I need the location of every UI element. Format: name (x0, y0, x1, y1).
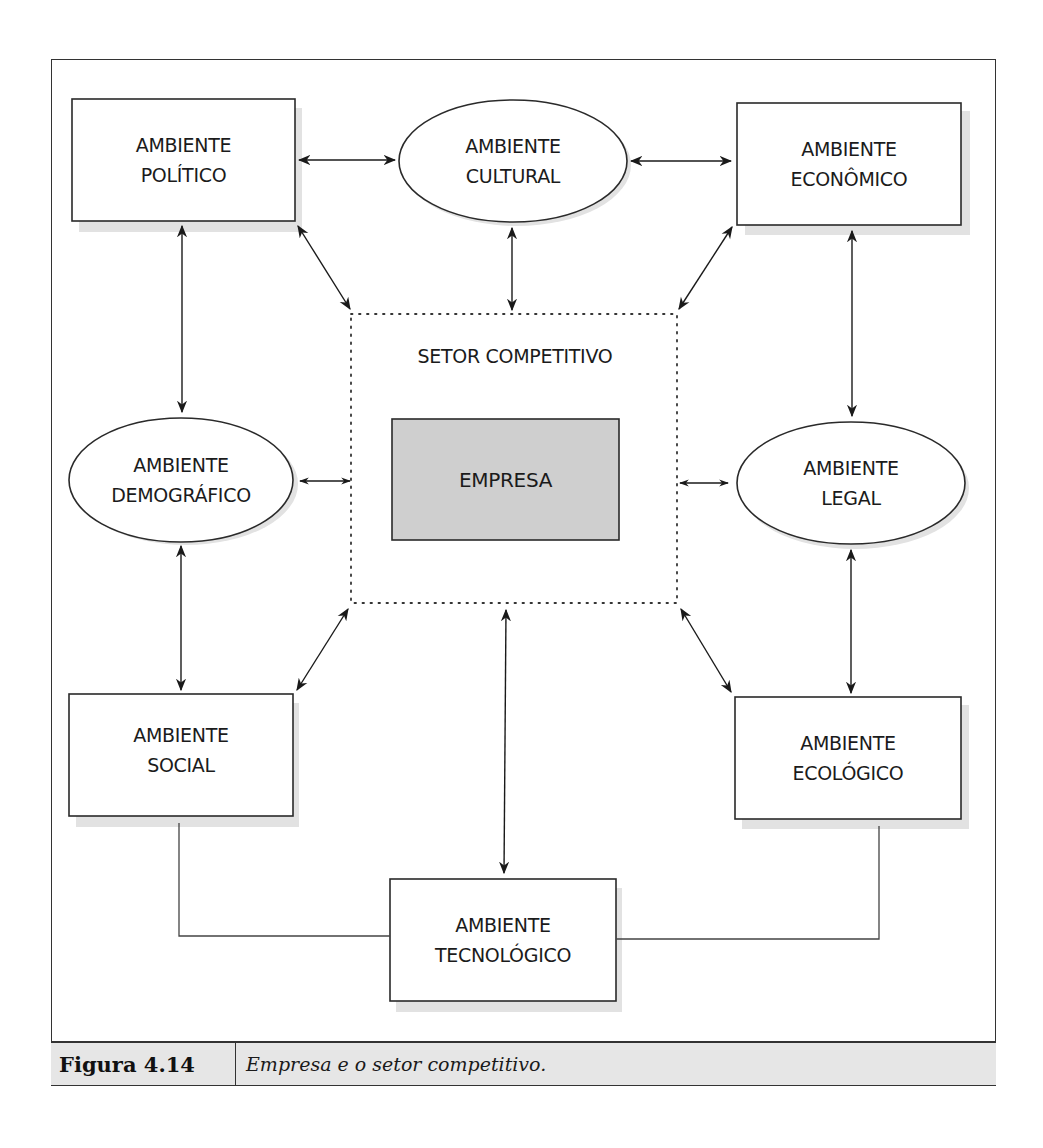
node-shadows (74, 104, 970, 1012)
cultural-environment-ellipse (399, 100, 627, 222)
line-social-tecnologico (179, 823, 390, 936)
figure-caption-text: Empresa e o setor competitivo. (236, 1043, 546, 1085)
competitive-sector-title: SETOR COMPETITIVO (350, 345, 680, 367)
diagram-canvas (0, 0, 1043, 1148)
arrow-ecologico-setor (681, 609, 731, 692)
demographic-environment-ellipse (69, 418, 293, 542)
economic-environment-box (737, 103, 961, 225)
figure-number: Figura 4.14 (51, 1043, 236, 1085)
figure-caption: Figura 4.14 Empresa e o setor competitiv… (51, 1042, 996, 1086)
arrow-social-setor (297, 609, 348, 690)
arrow-politico-setor (298, 226, 350, 309)
political-environment-box (72, 99, 295, 221)
line-ecologico-tecnologico (616, 826, 879, 939)
arrow-economico-setor (679, 227, 732, 309)
company-box (392, 419, 619, 540)
technological-environment-box (390, 879, 616, 1001)
legal-environment-ellipse (737, 422, 965, 544)
ecological-environment-box (735, 697, 961, 819)
arrow-tecnologico-setor (504, 610, 506, 873)
social-environment-box (69, 694, 293, 816)
